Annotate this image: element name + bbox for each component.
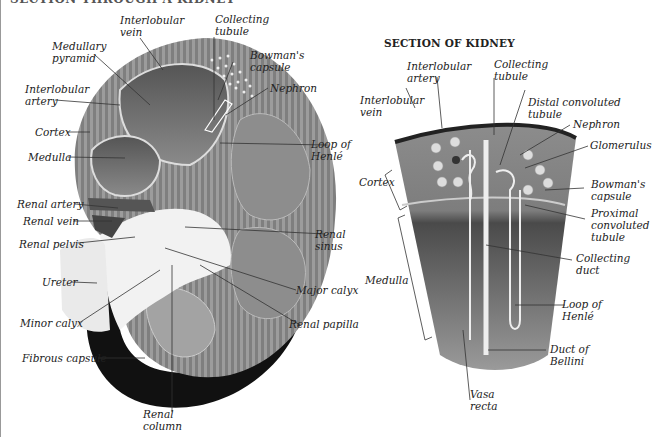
label-vasa-recta: Vasa recta (470, 388, 498, 412)
section-of-kidney-title: SECTION OF KIDNEY (384, 37, 515, 49)
label-renal-artery: Renal artery (17, 198, 84, 210)
label-renal-papilla: Renal papilla (289, 318, 359, 330)
label-medullary-pyramid: Medullary pyramid (52, 40, 106, 64)
label-bowmans-capsule: Bowman's capsule (250, 49, 304, 73)
label-interlobular-artery: Interlobular artery (25, 83, 89, 107)
label-duct-of-bellini: Duct of Bellini (550, 343, 589, 367)
label-section-interlobular-artery: Interlobular artery (407, 60, 471, 84)
label-section-nephron: Nephron (573, 118, 620, 130)
label-section-medulla: Medulla (365, 274, 408, 286)
label-collecting-tubule: Collecting tubule (215, 13, 269, 37)
label-proximal-convoluted-tubule: Proximal convoluted tubule (591, 207, 650, 243)
label-renal-pelvis: Renal pelvis (19, 238, 84, 250)
label-distal-convoluted-tubule: Distal convoluted tubule (528, 96, 621, 120)
label-cortex: Cortex (35, 126, 71, 138)
label-ureter: Ureter (42, 276, 78, 288)
label-nephron: Nephron (270, 82, 317, 94)
label-renal-vein: Renal vein (23, 215, 79, 227)
label-section-collecting-tubule: Collecting tubule (494, 58, 548, 82)
label-medulla: Medulla (28, 151, 71, 163)
label-section-cortex: Cortex (359, 176, 395, 188)
label-renal-column: Renal column (143, 408, 182, 432)
label-fibrous-capsule: Fibrous capsule (22, 352, 107, 364)
label-renal-sinus: Renal sinus (315, 228, 346, 252)
label-section-bowmans-capsule: Bowman's capsule (591, 178, 645, 202)
label-glomerulus: Glomerulus (590, 139, 652, 151)
label-minor-calyx: Minor calyx (20, 317, 83, 329)
label-collecting-duct: Collecting duct (576, 252, 630, 276)
label-section-loop-of-henle: Loop of Henlé (562, 298, 602, 322)
label-interlobular-vein: Interlobular vein (120, 14, 184, 38)
label-loop-of-henle: Loop of Henlé (311, 138, 351, 162)
label-major-calyx: Major calyx (296, 284, 358, 296)
label-section-interlobular-vein: Interlobular vein (360, 94, 424, 118)
